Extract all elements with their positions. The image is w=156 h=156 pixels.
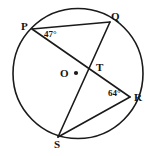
vertex-label-r: R	[134, 92, 142, 103]
chord-QS	[58, 22, 110, 137]
vertex-label-q: Q	[111, 11, 120, 22]
vertex-label-s: S	[54, 139, 60, 150]
chord-PQ	[32, 22, 110, 29]
vertex-label-p: P	[21, 21, 28, 32]
center-dot-icon	[74, 71, 78, 75]
chord-SR	[58, 97, 130, 137]
circle-center-label-o: O	[60, 68, 69, 79]
geometry-figure: P Q R S T O 47° 64°	[0, 0, 156, 156]
angle-measure-at-r: 64°	[108, 89, 121, 98]
vertex-label-t: T	[96, 62, 103, 73]
angle-measure-at-p: 47°	[44, 30, 57, 39]
